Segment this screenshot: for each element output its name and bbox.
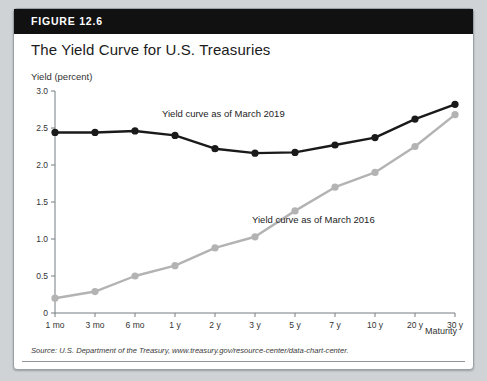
y-tick-label: 1.0: [36, 234, 48, 244]
y-tick-label: 1.5: [36, 197, 48, 207]
series-label-2019: Yield curve as of March 2019: [162, 108, 285, 119]
data-point: [451, 111, 458, 118]
data-point: [331, 141, 338, 148]
data-point: [371, 169, 378, 176]
figure-screenshot: FIGURE 12.6 The Yield Curve for U.S. Tre…: [0, 0, 487, 381]
y-tick-label: 0.5: [36, 271, 48, 281]
source-note: Source: U.S. Department of the Treasury,…: [31, 346, 349, 355]
data-point: [251, 233, 258, 240]
series-label-2016: Yield curve as of March 2016: [252, 214, 375, 225]
x-tick-label: 20 y: [407, 320, 424, 330]
data-point: [451, 101, 458, 108]
data-point: [131, 127, 138, 134]
x-tick-label: 1 y: [169, 320, 181, 330]
y-tick-label: 2.0: [36, 160, 48, 170]
chart-series: [51, 101, 458, 302]
data-point: [171, 132, 178, 139]
figure-card: FIGURE 12.6 The Yield Curve for U.S. Tre…: [13, 8, 474, 370]
x-tick-label: 7 y: [329, 320, 341, 330]
y-tick-label: 3.0: [36, 86, 48, 96]
x-axis-title: Maturity: [425, 326, 457, 336]
y-axis-tick-labels: 00.51.01.52.02.53.0: [36, 86, 48, 318]
data-point: [411, 116, 418, 123]
source-divider: [22, 361, 465, 362]
data-point: [211, 244, 218, 251]
x-tick-label: 6 mo: [126, 320, 145, 330]
y-tick-label: 2.5: [36, 123, 48, 133]
data-point: [131, 272, 138, 279]
data-point: [211, 145, 218, 152]
data-point: [291, 149, 298, 156]
yield-curve-svg: 1 mo3 mo6 mo1 y2 y3 y5 y7 y10 y20 y30 y …: [14, 9, 475, 371]
chart-plot-area: 1 mo3 mo6 mo1 y2 y3 y5 y7 y10 y20 y30 y …: [14, 9, 475, 371]
data-point: [51, 295, 58, 302]
series-line-2: [55, 115, 455, 299]
data-point: [251, 150, 258, 157]
x-tick-label: 1 mo: [46, 320, 65, 330]
data-point: [371, 134, 378, 141]
x-tick-label: 3 mo: [86, 320, 105, 330]
x-tick-label: 5 y: [289, 320, 301, 330]
data-point: [51, 129, 58, 136]
data-point: [91, 129, 98, 136]
data-point: [411, 143, 418, 150]
chart-axes: [51, 91, 455, 317]
x-tick-label: 2 y: [209, 320, 221, 330]
y-tick-label: 0: [43, 308, 48, 318]
x-tick-label: 10 y: [367, 320, 384, 330]
data-point: [331, 184, 338, 191]
x-tick-label: 3 y: [249, 320, 261, 330]
x-axis-tick-labels: 1 mo3 mo6 mo1 y2 y3 y5 y7 y10 y20 y30 y: [46, 320, 464, 330]
data-point: [171, 262, 178, 269]
data-point: [91, 288, 98, 295]
